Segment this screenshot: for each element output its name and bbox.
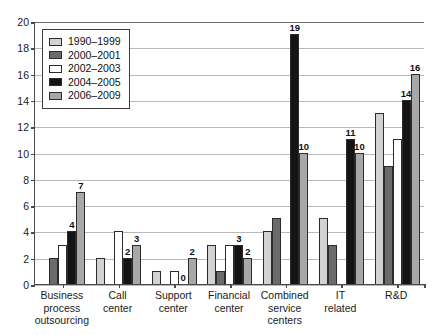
bar-value-label: 4: [69, 220, 74, 230]
bar: [384, 166, 393, 284]
bar-value-label: 2: [245, 247, 250, 257]
y-axis-tick-label: 18: [1, 43, 29, 53]
y-axis-tick-label: 16: [1, 70, 29, 80]
bar: [272, 218, 281, 284]
bar-value-label: 2: [190, 247, 195, 257]
bar-group: 02: [146, 22, 202, 284]
legend-item: 2004–2005: [49, 76, 121, 90]
bar-value-label: 16: [410, 63, 421, 73]
legend-swatch-icon: [49, 38, 62, 46]
bar-group: 1910: [258, 22, 314, 284]
bar-group: 32: [202, 22, 258, 284]
x-axis-tick-mark: [341, 284, 343, 288]
bar: 3: [234, 245, 243, 284]
y-axis-tick-mark: [31, 285, 35, 287]
bar: 2: [188, 258, 197, 284]
legend-swatch-icon: [49, 51, 62, 59]
legend-item: 2006–2009: [49, 89, 121, 103]
bar-value-label: 2: [125, 247, 130, 257]
bar: [49, 258, 58, 284]
y-axis-tick-label: 8: [1, 175, 29, 185]
x-axis-tick-mark: [230, 284, 232, 288]
bar: [328, 245, 337, 284]
y-axis-tick-label: 12: [1, 122, 29, 132]
bar-value-label: 11: [345, 128, 355, 138]
y-axis-tick-label: 2: [1, 254, 29, 264]
y-axis-tick-label: 6: [1, 201, 29, 211]
legend-item: 2002–2003: [49, 62, 121, 76]
legend-item-label: 2002–2003: [68, 63, 121, 74]
y-axis-tick-label: 20: [1, 17, 29, 27]
bar-value-label: 3: [134, 234, 139, 244]
y-axis-tick-label: 4: [1, 227, 29, 237]
bar: 19: [290, 34, 299, 284]
bar-value-label: 19: [289, 23, 300, 33]
x-axis-tick-mark: [286, 284, 288, 288]
bar-group: 1110: [314, 22, 370, 284]
chart-legend: 1990–19992000–20012002–20032004–20052006…: [42, 29, 130, 109]
bar: 10: [299, 153, 308, 285]
bar: 2: [123, 258, 132, 284]
x-axis-tick-mark: [63, 284, 65, 288]
bar: [263, 231, 272, 284]
bar: 10: [355, 153, 364, 285]
bar: [170, 271, 179, 284]
bar: 3: [132, 245, 141, 284]
bar: [216, 271, 225, 284]
bar: [207, 245, 216, 284]
legend-swatch-icon: [49, 65, 62, 73]
legend-swatch-icon: [49, 78, 62, 86]
bar-value-label: 10: [298, 142, 309, 152]
bar: [393, 139, 402, 284]
x-axis-category-label: R&D: [351, 289, 432, 302]
bar: [319, 218, 328, 284]
x-axis-tick-mark: [119, 284, 121, 288]
legend-item: 2000–2001: [49, 49, 121, 63]
bar-value-label: 0: [181, 273, 186, 283]
bar: 2: [243, 258, 252, 284]
bar: [114, 231, 123, 284]
legend-item-label: 1990–1999: [68, 36, 121, 47]
bar: 7: [76, 192, 85, 284]
legend-item-label: 2006–2009: [68, 90, 121, 101]
y-axis-tick-label: 10: [1, 149, 29, 159]
x-axis-tick-mark: [424, 284, 426, 288]
bar: 14: [402, 100, 411, 284]
legend-item: 1990–1999: [49, 35, 121, 49]
bar: [96, 258, 105, 284]
y-axis-tick-label: 14: [1, 96, 29, 106]
bar: 4: [67, 231, 76, 284]
bar: 16: [411, 74, 420, 284]
legend-item-label: 2004–2005: [68, 77, 121, 88]
bar: [58, 245, 67, 284]
bar-chart: 0246810121416182047230232191011101416 19…: [0, 0, 432, 335]
x-axis-tick-mark: [174, 284, 176, 288]
bar-value-label: 10: [354, 142, 365, 152]
bar: [152, 271, 161, 284]
bar: [225, 245, 234, 284]
bar: [375, 113, 384, 284]
x-axis-tick-mark: [397, 284, 399, 288]
bar-value-label: 3: [236, 234, 241, 244]
legend-item-label: 2000–2001: [68, 50, 121, 61]
legend-swatch-icon: [49, 92, 62, 100]
bar: 11: [346, 139, 355, 284]
bar-value-label: 7: [78, 181, 83, 191]
bar-group: 1416: [369, 22, 425, 284]
